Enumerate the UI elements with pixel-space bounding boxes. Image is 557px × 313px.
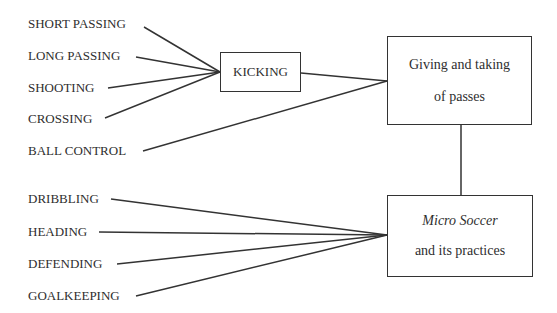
skill-dribbling: DRIBBLING (28, 192, 99, 206)
connector-kicking-passes (301, 73, 387, 81)
micro-soccer-box: Micro Soccer and its practices (387, 195, 533, 277)
connector-defending (117, 235, 387, 264)
passes-line-1: Giving and taking (409, 58, 510, 72)
micro-soccer-title: Micro Soccer (422, 214, 497, 228)
skill-goalkeeping: GOALKEEPING (28, 289, 120, 303)
micro-soccer-subtitle: and its practices (415, 244, 505, 258)
connector-heading (99, 232, 387, 235)
skill-ball-control: BALL CONTROL (28, 144, 126, 158)
skill-defending: DEFENDING (28, 257, 102, 271)
connector-dribbling (111, 199, 387, 235)
connector-goalkeeping (136, 235, 387, 296)
connector-crossing (105, 72, 220, 118)
passes-line-2: of passes (434, 90, 485, 104)
giving-taking-passes-box: Giving and taking of passes (387, 36, 532, 125)
skill-long-passing: LONG PASSING (28, 49, 120, 63)
skill-crossing: CROSSING (28, 112, 92, 126)
skill-short-passing: SHORT PASSING (28, 17, 126, 31)
kicking-label: KICKING (233, 65, 288, 79)
connector-shooting (108, 72, 220, 88)
kicking-box: KICKING (220, 52, 301, 92)
skill-shooting: SHOOTING (28, 81, 94, 95)
skill-heading: HEADING (28, 225, 87, 239)
